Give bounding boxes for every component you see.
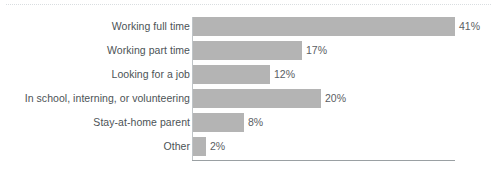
value-label: 8% [248,113,263,132]
bar-chart-figure: Working full time 41% Working part time … [0,0,497,175]
bar [193,41,302,60]
bar-row: In school, interning, or volunteering 20… [0,89,497,108]
value-label: 2% [210,137,225,156]
category-label: Working full time [112,17,190,36]
bar-row: Looking for a job 12% [0,65,497,84]
category-label: Looking for a job [112,65,191,84]
bar [193,89,321,108]
category-label: Other [163,137,190,156]
bar-row: Stay-at-home parent 8% [0,113,497,132]
plot-area: Working full time 41% Working part time … [0,14,497,164]
category-label: Working part time [107,41,190,60]
bar [193,113,244,132]
category-label: In school, interning, or volunteering [25,89,190,108]
bar [193,137,206,156]
top-dotted-divider [6,4,491,5]
bar [193,65,270,84]
value-label: 17% [306,41,327,60]
value-label: 20% [325,89,346,108]
bar-row: Working full time 41% [0,17,497,36]
value-label: 41% [459,17,480,36]
value-axis-baseline [192,160,455,161]
value-label: 12% [274,65,295,84]
bar-row: Working part time 17% [0,41,497,60]
bar-row: Other 2% [0,137,497,156]
category-label: Stay-at-home parent [93,113,190,132]
bar [193,17,455,36]
